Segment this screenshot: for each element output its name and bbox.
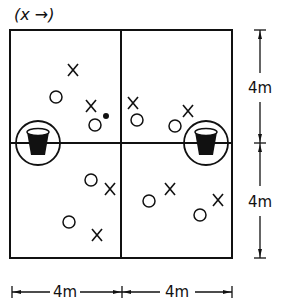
player-x-marker xyxy=(128,97,138,109)
player-x-marker xyxy=(86,100,96,112)
title-label: (x →) xyxy=(14,5,54,24)
court-diagram: (x →) 4m 4m xyxy=(0,0,282,307)
player-o-marker xyxy=(169,120,181,132)
ball-dot-icon xyxy=(103,113,109,119)
player-o-marker xyxy=(131,114,143,126)
dimension-right-bottom-label: 4m xyxy=(248,193,272,211)
player-o-marker xyxy=(63,216,75,228)
player-x-marker xyxy=(92,229,102,241)
player-o-marker xyxy=(85,174,97,186)
dimension-right-top-label: 4m xyxy=(248,79,272,97)
dimension-bottom-right-label: 4m xyxy=(165,283,189,301)
player-x-marker xyxy=(213,194,223,206)
basket-left xyxy=(16,121,60,165)
dimension-right xyxy=(254,30,266,258)
dimension-bottom xyxy=(12,286,232,298)
player-x-marker xyxy=(68,64,78,76)
player-o-marker xyxy=(50,91,62,103)
player-x-marker xyxy=(183,105,193,117)
basket-right xyxy=(184,121,228,165)
player-o-marker xyxy=(89,119,101,131)
player-o-marker xyxy=(143,195,155,207)
player-x-marker xyxy=(105,183,115,195)
player-o-marker xyxy=(194,209,206,221)
player-x-marker xyxy=(165,183,175,195)
players-o xyxy=(50,91,206,228)
dimension-bottom-left-label: 4m xyxy=(53,283,77,301)
